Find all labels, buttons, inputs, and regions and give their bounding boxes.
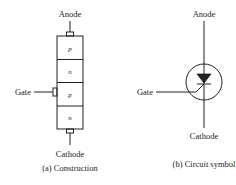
construction-anode-label: Anode xyxy=(59,9,82,19)
layer-n2: n xyxy=(68,114,72,122)
construction-panel: Anode p n p n Gate Cathode (a) Construct… xyxy=(15,9,99,173)
diode-triangle-icon xyxy=(197,74,211,83)
symbol-cathode-label: Cathode xyxy=(190,131,219,141)
cathode-contact xyxy=(67,129,74,133)
construction-caption: (a) Construction xyxy=(42,163,98,173)
layer-p1: p xyxy=(67,45,72,53)
thyristor-diagram: Anode p n p n Gate Cathode (a) Construct… xyxy=(0,0,236,185)
layer-p2: p xyxy=(67,91,72,99)
symbol-gate-diagonal xyxy=(196,84,204,92)
construction-cathode-label: Cathode xyxy=(56,149,85,159)
symbol-anode-label: Anode xyxy=(193,9,216,19)
layer-n1: n xyxy=(68,68,72,76)
construction-gate-label: Gate xyxy=(15,87,31,97)
gate-contact xyxy=(53,88,57,96)
anode-contact xyxy=(67,32,74,36)
symbol-panel: Anode Gate Cathode (b) Circuit symbol xyxy=(137,9,236,169)
symbol-gate-label: Gate xyxy=(137,87,153,97)
symbol-caption: (b) Circuit symbol xyxy=(173,159,236,169)
